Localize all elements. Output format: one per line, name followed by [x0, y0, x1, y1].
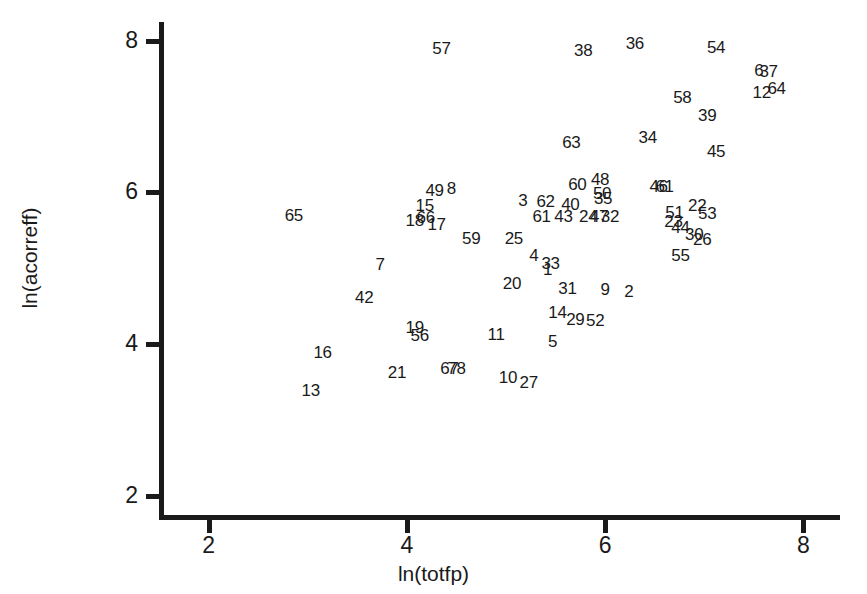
data-point-label: 21 [388, 364, 406, 381]
data-point-label: 56 [411, 326, 429, 343]
data-point-label: 60 [568, 176, 586, 193]
data-point-label: 78 [447, 360, 465, 377]
data-point-label: 57 [432, 40, 450, 57]
caption-fragment [18, 578, 348, 592]
data-point-label: 52 [586, 311, 604, 328]
data-point-label: 10 [499, 368, 517, 385]
data-point-label: 54 [707, 38, 725, 55]
y-tick-mark [146, 190, 159, 195]
data-point-label: 20 [503, 275, 521, 292]
data-point-label: 31 [558, 279, 576, 296]
x-axis-line [159, 515, 840, 520]
data-point-label: 32 [601, 207, 619, 224]
x-tick-label: 2 [189, 534, 229, 557]
data-point-label: 58 [673, 88, 691, 105]
y-tick-mark [146, 342, 159, 347]
data-point-label: 36 [626, 34, 644, 51]
data-point-label: 27 [520, 373, 538, 390]
data-point-label: 13 [302, 381, 320, 398]
data-point-label: 16 [313, 343, 331, 360]
data-point-label: 59 [462, 229, 480, 246]
data-point-label: 7 [375, 256, 384, 273]
y-tick-label: 4 [98, 332, 138, 355]
x-tick-label: 6 [585, 534, 625, 557]
data-point-label: 42 [355, 289, 373, 306]
data-point-label: 35 [594, 190, 612, 207]
data-point-label: 1 [543, 260, 552, 277]
y-tick-label: 8 [98, 29, 138, 52]
data-point-label: 25 [505, 229, 523, 246]
data-point-label: 45 [707, 142, 725, 159]
data-point-label: 55 [671, 246, 689, 263]
data-point-label: 34 [639, 129, 657, 146]
data-point-label: 3 [518, 191, 527, 208]
data-point-label: 11 [488, 326, 505, 343]
y-tick-mark [146, 39, 159, 44]
data-point-label: 37 [759, 63, 777, 80]
data-point-label: 38 [574, 41, 592, 58]
y-tick-label: 6 [98, 180, 138, 203]
data-point-label: 61 [655, 177, 673, 194]
y-axis-line [159, 22, 164, 520]
data-point-label: 64 [767, 80, 785, 97]
data-point-label: 9 [600, 281, 609, 298]
data-point-label: 26 [693, 231, 711, 248]
data-point-label: 4 [529, 246, 538, 263]
data-point-label: 8 [447, 179, 456, 196]
data-point-label: 2 [624, 282, 633, 299]
data-point-label: 61 [532, 207, 550, 224]
x-tick-label: 8 [783, 534, 823, 557]
scatter-plot-figure: 2468 2468 573836546371264583934456348604… [0, 0, 867, 594]
y-axis-title: ln(acorreff) [18, 158, 42, 358]
data-point-label: 29 [566, 311, 584, 328]
data-point-label: 43 [554, 207, 572, 224]
data-point-label: 5 [548, 333, 557, 350]
data-point-label: 63 [562, 134, 580, 151]
y-tick-mark [146, 494, 159, 499]
data-point-label: 14 [548, 304, 566, 321]
x-tick-label: 4 [387, 534, 427, 557]
data-point-label: 53 [698, 204, 716, 221]
data-point-label: 39 [698, 107, 716, 124]
data-point-label: 65 [285, 207, 303, 224]
y-tick-label: 2 [98, 484, 138, 507]
data-point-label: 17 [427, 216, 445, 233]
